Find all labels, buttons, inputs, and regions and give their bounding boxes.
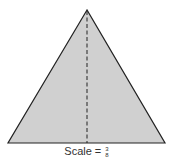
triangle-diagram <box>0 0 173 167</box>
fraction-denominator: 8 <box>105 152 108 158</box>
scale-label: Scale = <box>64 145 101 157</box>
scale-caption: Scale = 3 8 <box>0 145 173 158</box>
scale-fraction: 3 8 <box>105 146 108 158</box>
